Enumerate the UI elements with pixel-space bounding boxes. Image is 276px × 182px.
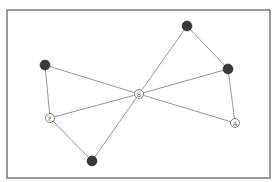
node-n4[interactable] [87, 156, 97, 166]
node-circle [40, 60, 50, 70]
node-label: F [48, 115, 52, 122]
node-circle [223, 64, 233, 74]
node-circle [182, 21, 192, 31]
node-circle [87, 156, 97, 166]
edge-n3-A [228, 69, 235, 123]
node-label: B [137, 91, 141, 98]
edge-n2-n3 [187, 26, 228, 69]
edge-n4-B [92, 94, 139, 161]
node-n3[interactable] [223, 64, 233, 74]
node-n1[interactable] [40, 60, 50, 70]
nodes-group: BFA [40, 21, 240, 166]
edge-B-A [139, 94, 235, 123]
edge-n1-B [45, 65, 139, 94]
node-b[interactable]: B [135, 90, 144, 99]
edge-n1-F [45, 65, 50, 118]
edge-F-n4 [50, 118, 92, 161]
edge-n3-B [139, 69, 228, 94]
edge-F-B [50, 94, 139, 118]
node-f[interactable]: F [46, 114, 55, 123]
graph-diagram: BFA [0, 0, 276, 182]
node-a[interactable]: A [231, 119, 240, 128]
node-n2[interactable] [182, 21, 192, 31]
edge-B-n2 [139, 26, 187, 94]
